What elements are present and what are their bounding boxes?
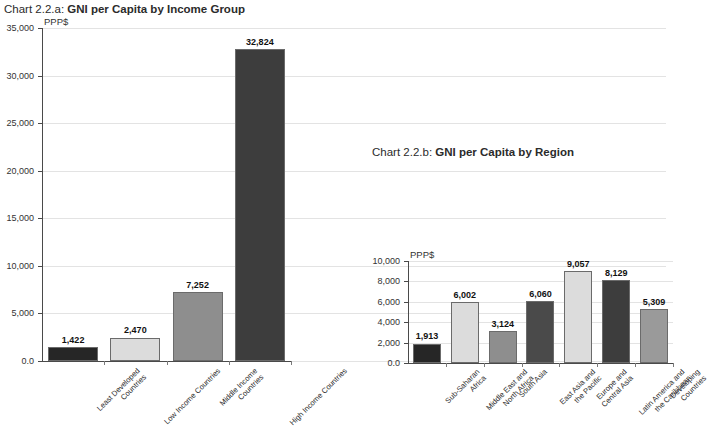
y-axis-tick-label: 2,000 [362,338,400,348]
bar [602,280,630,363]
y-axis-tick-label: 8,000 [362,276,400,286]
gridline [42,76,666,77]
x-axis-tick [635,363,636,367]
bar-value-label: 3,124 [491,319,514,329]
x-axis-category-label: Low Income Countries [164,367,223,426]
chart-b-unit-label: PPP$ [410,249,434,260]
x-axis-category-label: Sub-Saharan Africa [444,368,488,412]
x-axis-category-label: East Asia and the Pacific [558,368,603,413]
y-axis-tick-label: 4,000 [362,317,400,327]
bar [451,302,479,363]
y-axis-tick-label: 15,000 [0,213,34,223]
gridline [42,123,666,124]
x-axis-tick [291,361,292,365]
bar-value-label: 8,129 [605,268,628,278]
bar [640,309,668,363]
bar-value-label: 1,422 [62,335,85,345]
y-axis-tick-label: 10,000 [0,261,34,271]
x-axis-category-label: Europe and Central Asia [594,368,635,409]
chart-a-title-name: GNI per Capita by Income Group [67,3,245,15]
bar-value-label: 2,470 [124,325,147,335]
x-axis-category-label: Middle Income Countries [218,367,265,414]
y-axis-tick-label: 25,000 [0,118,34,128]
gridline [42,28,666,29]
gridline [408,261,673,262]
bar [413,344,441,364]
bar [48,347,98,361]
x-axis-tick [104,361,105,365]
bar [526,301,554,363]
chart-a-plot-area: 0.05,00010,00015,00020,00025,00030,00035… [42,28,291,361]
bar-value-label: 6,060 [529,289,552,299]
bar-value-label: 6,002 [454,290,477,300]
y-axis-tick-label: 30,000 [0,71,34,81]
x-axis-tick [167,361,168,365]
x-axis-tick [522,363,523,367]
y-axis-tick-label: 0.0 [362,358,400,368]
y-axis-tick-label: 35,000 [0,23,34,33]
chart-a-title-number: Chart 2.2.a: [4,3,67,15]
chart-b-title: Chart 2.2.b: GNI per Capita by Region [372,146,574,158]
x-axis-tick [597,363,598,367]
bar-value-label: 1,913 [416,331,439,341]
x-axis-tick [229,361,230,365]
bar [489,331,517,363]
x-axis-category-label: Least Developed Countries [96,367,148,419]
gridline [42,218,666,219]
y-axis-tick-label: 10,000 [362,256,400,266]
x-axis-category-label: High Income Countries [289,367,350,428]
y-axis-tick-label: 0.0 [0,356,34,366]
bar-value-label: 5,309 [643,297,666,307]
chart-b-title-number: Chart 2.2.b: [372,146,435,158]
bar [235,49,285,361]
bar-value-label: 7,252 [186,280,209,290]
x-axis-line [408,363,673,364]
bar-value-label: 32,824 [246,37,274,47]
x-axis-tick [446,363,447,367]
chart-b-plot-area: 0.02,0004,0006,0008,00010,0001,913Sub-Sa… [408,261,673,363]
bar [173,292,223,361]
x-axis-tick [484,363,485,367]
gridline [42,171,666,172]
x-axis-tick [673,363,674,367]
x-axis-tick [559,363,560,367]
y-axis-tick-label: 20,000 [0,166,34,176]
y-axis-line [42,28,43,361]
bar [564,271,592,363]
chart-a-title: Chart 2.2.a: GNI per Capita by Income Gr… [4,3,245,15]
bar-value-label: 9,057 [567,259,590,269]
y-axis-tick-label: 6,000 [362,297,400,307]
y-axis-line [408,261,409,363]
gridline [408,281,673,282]
chart-b-title-name: GNI per Capita by Region [435,146,574,158]
y-axis-tick-label: 5,000 [0,308,34,318]
chart-a-unit-label: PPP$ [44,16,68,27]
bar [110,338,160,362]
